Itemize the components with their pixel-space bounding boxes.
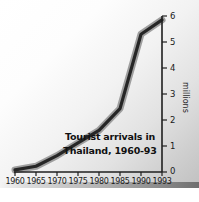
y-tick-label-1: 1	[170, 141, 180, 151]
chart-title-line-1: Tourist arrivals in	[62, 130, 158, 144]
y-tick-label-5: 5	[170, 37, 180, 47]
y-tick-label-4: 4	[170, 63, 180, 73]
y-tick-label-0: 0	[170, 166, 180, 176]
y-tick-label-3: 3	[170, 89, 180, 99]
y-tick-label-6: 6	[170, 11, 180, 21]
y-tick-label-2: 2	[170, 115, 180, 125]
chart-title-line-2: Thailand, 1960-93	[62, 144, 158, 158]
chart-figure: 6 5 4 3 2 1 0 millions 1960 1965 1970 19…	[0, 0, 199, 202]
y-axis-title: millions	[181, 82, 190, 113]
x-tick-label-1993: 1993	[149, 177, 175, 186]
chart-title: Tourist arrivals in Thailand, 1960-93	[62, 130, 158, 157]
